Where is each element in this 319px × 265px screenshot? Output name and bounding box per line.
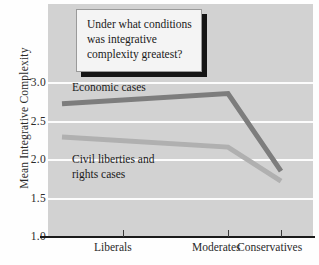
x-axis-line — [40, 236, 315, 238]
y-axis-title: Mean Integrative Complexity — [18, 33, 30, 203]
x-axis-label-liberals: Liberals — [94, 241, 132, 253]
x-tick-conservatives — [281, 230, 282, 237]
series-label-economic: Economic cases — [72, 80, 146, 95]
series-label-civil-liberties: Civil liberties and rights cases — [72, 152, 154, 182]
callout-text: Under what conditions was integrative co… — [87, 17, 193, 63]
x-axis-label-moderates: Moderates — [192, 241, 241, 253]
chart-figure: Economic cases Civil liberties and right… — [0, 0, 319, 265]
x-tick-moderates — [228, 230, 229, 237]
x-axis-label-conservatives: Conservatives — [237, 241, 302, 253]
x-tick-liberals — [123, 230, 124, 237]
callout-box: Under what conditions was integrative co… — [76, 9, 202, 72]
